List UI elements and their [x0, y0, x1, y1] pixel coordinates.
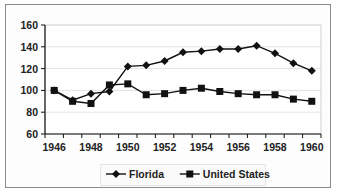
x-tick-label: 1960 — [300, 141, 324, 153]
legend — [100, 164, 266, 186]
y-tick-label: 100 — [20, 84, 38, 96]
y-tick-label: 80 — [26, 106, 38, 118]
square-marker-icon — [106, 81, 113, 88]
square-marker-icon — [88, 100, 95, 107]
square-marker-icon — [51, 87, 58, 94]
x-tick-label: 1946 — [43, 141, 67, 153]
x-tick-label: 1956 — [227, 141, 251, 153]
square-marker-icon — [198, 85, 205, 92]
square-marker-icon — [216, 88, 223, 95]
square-marker-icon — [180, 87, 187, 94]
x-tick-label: 1948 — [79, 141, 103, 153]
x-tick-label: 1958 — [263, 141, 287, 153]
square-marker-icon — [124, 80, 131, 87]
square-marker-icon — [253, 91, 260, 98]
square-marker-icon — [308, 98, 315, 105]
square-marker-icon — [161, 90, 168, 97]
x-tick-label: 1952 — [153, 141, 177, 153]
y-tick-label: 120 — [20, 63, 38, 75]
x-tick-label: 1950 — [116, 141, 140, 153]
y-tick-label: 140 — [20, 41, 38, 53]
square-marker-icon — [143, 91, 150, 98]
y-tick-label: 160 — [20, 19, 38, 31]
square-marker-icon — [290, 96, 297, 103]
square-marker-icon — [235, 90, 242, 97]
plot-area — [45, 25, 321, 134]
x-tick-label: 1954 — [190, 141, 214, 153]
square-marker-icon — [69, 98, 76, 105]
square-marker-icon — [272, 91, 279, 98]
y-tick-label: 60 — [26, 128, 38, 140]
